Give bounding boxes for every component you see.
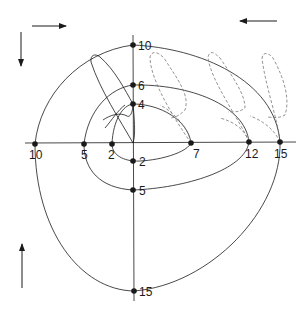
outer-ring [35,45,280,291]
point-top-4 [130,101,136,107]
inner-ring [112,104,191,161]
point-right-7 [188,140,194,146]
solid-loop [91,55,135,143]
diagram-canvas: 10 5 2 7 12 15 10 6 4 2 5 15 [0,0,303,317]
label-top-10: 10 [138,39,152,53]
point-bottom-5 [130,187,136,193]
vertical-axis [133,35,134,301]
point-left-2 [109,141,115,147]
point-right-12 [246,139,252,145]
label-left-2: 2 [108,148,115,162]
point-right-15 [277,139,283,145]
label-right-7: 7 [193,147,200,161]
contour-curves [35,45,280,291]
horizontal-axis [25,142,296,143]
label-bottom-15: 15 [139,285,153,299]
point-left-5 [81,141,87,147]
point-top-6 [130,82,136,88]
label-top-4: 4 [138,98,145,112]
point-bottom-2 [130,158,136,164]
label-left-5: 5 [81,148,88,162]
point-left-10 [32,141,38,147]
point-top-10 [130,42,136,48]
label-top-6: 6 [138,79,145,93]
label-bottom-2: 2 [139,155,146,169]
point-bottom-15 [131,288,137,294]
label-right-15: 15 [274,147,288,161]
label-left-10: 10 [29,148,43,162]
label-right-12: 12 [245,147,259,161]
dashed-loops [150,53,287,143]
label-bottom-5: 5 [139,184,146,198]
